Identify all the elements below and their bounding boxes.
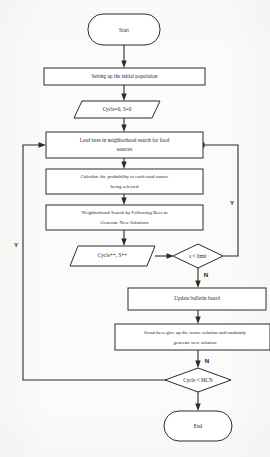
node-cycle-mcn-decision[interactable]: Cycle < MCN xyxy=(165,368,231,392)
scout-bees-label-line1: Scout bees give up the worse solution an… xyxy=(144,330,247,335)
node-start[interactable]: Start xyxy=(88,14,160,45)
branch-label-s-limit-no: N xyxy=(204,271,209,278)
arrowhead-cyclemcn xyxy=(195,361,200,369)
arrowhead-updateboard xyxy=(195,281,200,289)
node-cycle-increment[interactable]: Cycle++, S++ xyxy=(70,246,155,266)
branch-label-s-limit-yes: Y xyxy=(230,199,235,206)
node-calc-probability[interactable]: Calculate the probability of each food s… xyxy=(46,169,203,194)
arrowhead-scout xyxy=(195,317,200,325)
arrowhead-cyclemcn-yes xyxy=(39,142,47,147)
arrowhead-cycleinc xyxy=(121,239,126,247)
branch-label-cycle-mcn-no: N xyxy=(205,357,210,364)
cycle-mcn-label: Cycle < MCN xyxy=(183,377,213,383)
following-bees-label-line2: Generate New Solutions xyxy=(101,220,149,225)
end-label: End xyxy=(194,423,203,429)
update-board-label: Update bulletin board xyxy=(174,295,220,301)
arrowhead-init xyxy=(121,61,126,69)
arrowhead-end xyxy=(195,404,200,412)
init-population-label: Setting up the initial population xyxy=(91,73,158,79)
calc-probability-label-line2: being selected xyxy=(111,184,139,189)
start-label: Start xyxy=(119,27,129,33)
node-s-limit-decision[interactable]: s < limit xyxy=(173,244,223,268)
scout-bees-shape xyxy=(115,324,270,350)
lead-bees-label-line2: sources xyxy=(117,146,133,152)
node-scout-bees[interactable]: Scout bees give up the worse solution an… xyxy=(115,324,270,350)
arrowhead-followbees xyxy=(121,198,126,206)
cycle-init-label: Cycle=0, S=0 xyxy=(103,106,132,112)
following-bees-label-line1: Neighborhood Search by Following Bees to xyxy=(82,210,169,215)
arrowhead-leadbees xyxy=(121,125,126,133)
cycle-increment-label: Cycle++, S++ xyxy=(98,252,127,258)
node-init-population[interactable]: Setting up the initial population xyxy=(44,68,205,85)
arrowhead-cycle0 xyxy=(121,94,126,102)
calc-probability-shape xyxy=(46,169,203,194)
calc-probability-label-line1: Calculate the probability of each food s… xyxy=(81,174,169,179)
node-end[interactable]: End xyxy=(164,411,232,441)
flowchart-page: Start Setting up the initial population … xyxy=(0,0,270,457)
branch-label-cycle-mcn-yes: Y xyxy=(14,241,19,248)
arrowhead-calcprob xyxy=(121,162,126,170)
scout-bees-label-line2: generate new solution xyxy=(174,340,217,345)
following-bees-shape xyxy=(46,205,203,230)
node-cycle-init[interactable]: Cycle=0, S=0 xyxy=(74,101,160,118)
flowchart-canvas: Start Setting up the initial population … xyxy=(0,0,270,457)
node-lead-bees[interactable]: Lead bees in neighborhood search for foo… xyxy=(46,132,203,158)
node-following-bees[interactable]: Neighborhood Search by Following Bees to… xyxy=(46,205,203,230)
node-update-board[interactable]: Update bulletin board xyxy=(128,288,266,310)
lead-bees-label-line1: Lead bees in neighborhood search for foo… xyxy=(80,137,170,143)
s-limit-label: s < limit xyxy=(189,253,207,259)
